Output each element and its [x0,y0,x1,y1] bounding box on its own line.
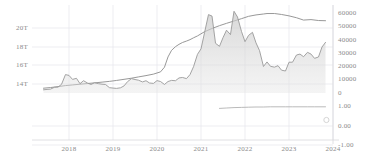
y-axis-left-tick-20T: 20T [0,24,28,32]
y-axis-right-price-tick-10000: 10000 [338,75,357,83]
x-axis-tick-2023: 2023 [275,145,303,153]
series-area-bitcoin-price [43,11,325,93]
x-axis-tick-2020: 2020 [143,145,171,153]
x-axis-tick-2021: 2021 [187,145,215,153]
series-line-correlation-ratio [219,107,325,109]
y-axis-right-ratio-tick-1.00: 1.00 [338,102,351,110]
series-group [43,11,325,108]
x-axis-tick-2024: 2024 [319,145,347,153]
x-axis-tick-2019: 2019 [99,145,127,153]
x-axis-tick-2022: 2022 [231,145,259,153]
y-axis-right-price-tick-50000: 50000 [338,22,357,30]
y-axis-right-price-tick-20000: 20000 [338,62,357,70]
x-axis-tick-2018: 2018 [55,145,83,153]
chart-container: 20T18T16T14T6000050000400003000020000100… [0,0,383,166]
endpoint-marker [324,117,329,122]
y-axis-right-price-tick-60000: 60000 [338,9,357,17]
chart-plot-area [0,0,383,166]
y-axis-right-price-tick-0: 0 [338,89,342,97]
marker-group [324,117,329,122]
y-axis-left-tick-14T: 14T [0,80,28,88]
y-axis-right-ratio-tick-0.00: 0.00 [338,122,351,130]
y-axis-right-price-tick-40000: 40000 [338,36,357,44]
y-axis-right-price-tick-30000: 30000 [338,49,357,57]
y-axis-left-tick-18T: 18T [0,43,28,51]
y-axis-left-tick-16T: 16T [0,61,28,69]
